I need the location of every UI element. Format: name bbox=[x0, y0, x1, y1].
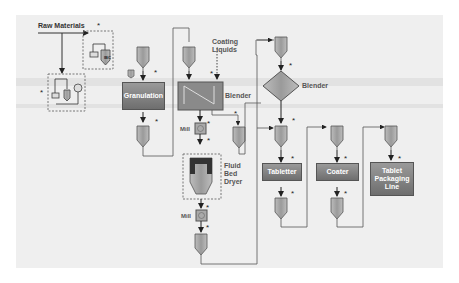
scale-icon bbox=[52, 93, 59, 98]
coating-liquids-label-1: Coating bbox=[212, 38, 238, 46]
marker: * bbox=[210, 70, 213, 78]
marker: * bbox=[398, 155, 401, 163]
marker: * bbox=[291, 155, 294, 163]
marker: * bbox=[344, 155, 347, 163]
ibc-label: IBC bbox=[104, 54, 111, 62]
marker: * bbox=[292, 117, 295, 125]
raw-materials-lines bbox=[38, 33, 88, 73]
container-icon bbox=[64, 90, 70, 101]
marker: * bbox=[155, 118, 158, 126]
dryer-label-2: Bed bbox=[224, 170, 237, 178]
weigh-icon bbox=[74, 84, 82, 92]
packaging-label-1: Tablet bbox=[382, 167, 402, 175]
dryer-label-3: Dryer bbox=[224, 178, 242, 186]
marker: * bbox=[206, 224, 209, 232]
granulation-box: Granulation bbox=[122, 82, 165, 110]
marker: * bbox=[154, 69, 157, 77]
tabletter-box: Tabletter bbox=[262, 163, 302, 181]
blender-2-diamond bbox=[263, 71, 299, 101]
blender-1-label: Blender bbox=[225, 92, 251, 100]
marker: * bbox=[344, 190, 347, 198]
packaging-label-2: Packaging bbox=[374, 175, 409, 183]
marker: * bbox=[207, 120, 210, 128]
mill-1-label: Mill bbox=[180, 125, 190, 133]
marker: * bbox=[97, 22, 100, 30]
marker: * bbox=[40, 89, 43, 97]
packaging-label-3: Line bbox=[385, 183, 399, 191]
coater-box: Coater bbox=[316, 163, 359, 181]
mill-2-label: Mill bbox=[181, 212, 191, 220]
blender-2-label: Blender bbox=[302, 82, 328, 90]
marker: * bbox=[291, 190, 294, 198]
dryer-label-1: Fluid bbox=[224, 162, 241, 170]
raw-materials-label: Raw Materials bbox=[38, 22, 85, 30]
mill-1-icon bbox=[195, 123, 206, 134]
marker: * bbox=[289, 62, 292, 70]
small-container-icon bbox=[128, 70, 134, 78]
marker: * bbox=[207, 137, 210, 145]
coating-liquids-label-2: Liquids bbox=[212, 46, 237, 54]
marker: * bbox=[234, 110, 237, 118]
marker: * bbox=[206, 204, 209, 212]
scale-icon bbox=[90, 52, 98, 57]
packaging-line-box: Tablet Packaging Line bbox=[370, 162, 414, 196]
